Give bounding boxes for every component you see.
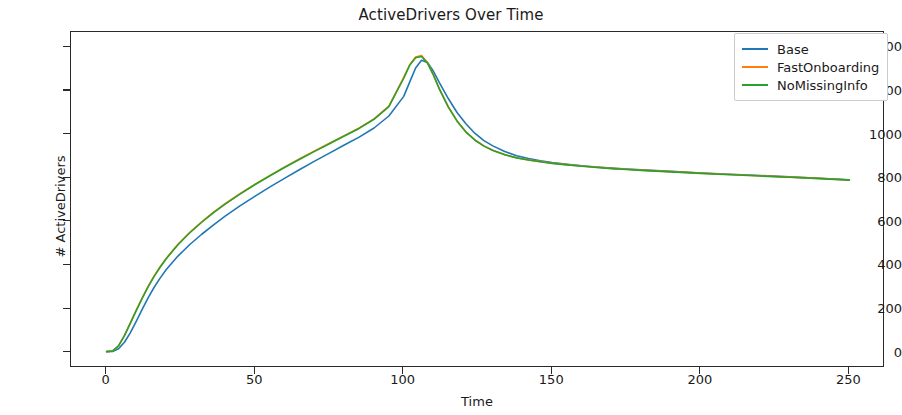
chart-figure: ActiveDrivers Over Time 0200400600800100… [0, 0, 902, 415]
x-tick-label: 100 [373, 372, 433, 387]
legend-item[interactable]: NoMissingInfo [742, 76, 879, 94]
y-axis-label: # ActiveDrivers [53, 107, 68, 307]
x-tick-label: 200 [670, 372, 730, 387]
series-line [107, 60, 850, 351]
y-tick-label: 200 [846, 301, 902, 316]
y-tick-mark [63, 46, 70, 47]
legend-label: NoMissingInfo [777, 78, 868, 93]
legend-item[interactable]: Base [742, 40, 879, 58]
chart-title: ActiveDrivers Over Time [0, 6, 902, 24]
y-tick-mark [63, 89, 70, 90]
y-tick-label: 1000 [846, 126, 902, 141]
x-tick-label: 250 [818, 372, 878, 387]
x-tick-mark [402, 367, 403, 374]
legend: BaseFastOnboardingNoMissingInfo [734, 33, 888, 101]
y-tick-label: 0 [846, 344, 902, 359]
legend-label: FastOnboarding [777, 60, 879, 75]
legend-item[interactable]: FastOnboarding [742, 58, 879, 76]
y-tick-label: 800 [846, 170, 902, 185]
x-tick-label: 0 [76, 372, 136, 387]
legend-swatch-icon [742, 48, 768, 50]
legend-swatch-icon [742, 66, 768, 68]
y-tick-label: 400 [846, 257, 902, 272]
y-tick-mark [63, 351, 70, 352]
x-axis-label: Time [70, 394, 884, 409]
x-tick-mark [551, 367, 552, 374]
y-tick-label: 600 [846, 213, 902, 228]
x-tick-mark [105, 367, 106, 374]
x-tick-label: 50 [224, 372, 284, 387]
x-tick-label: 150 [521, 372, 581, 387]
legend-label: Base [777, 42, 809, 57]
x-tick-mark [699, 367, 700, 374]
x-tick-mark [848, 367, 849, 374]
x-tick-mark [254, 367, 255, 374]
legend-swatch-icon [742, 84, 768, 86]
y-tick-mark [63, 308, 70, 309]
